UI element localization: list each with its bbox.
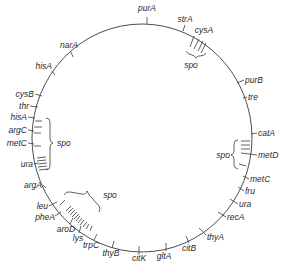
- spo-labels: spo spo spo spo: [57, 60, 230, 200]
- gene-label-metC-right: metC: [250, 174, 271, 184]
- gene-label-purA: purA: [137, 3, 156, 13]
- gene-label-strA: strA: [177, 14, 192, 24]
- gene-label-lys: lys: [73, 233, 84, 243]
- gene-label-aroD: aroD: [57, 224, 75, 234]
- gene-label-pheA: pheA: [34, 212, 55, 222]
- gene-label-argC: argC: [9, 125, 28, 135]
- gene-label-citK: citK: [132, 253, 147, 263]
- gene-label-leu: leu: [37, 201, 49, 211]
- spo-label-upper-right: spo: [184, 60, 198, 70]
- gene-label-citB: citB: [182, 243, 197, 253]
- genetic-map-diagram: purA strA cysA purB tre catA metD metC f…: [0, 0, 287, 264]
- gene-label-cysA: cysA: [195, 25, 214, 35]
- gene-label-thr: thr: [19, 101, 30, 111]
- gene-label-hisA-lower: hisA: [10, 112, 27, 122]
- gene-label-metD: metD: [258, 150, 278, 160]
- gene-label-thyA: thyA: [207, 232, 224, 242]
- gene-label-narA: narA: [60, 40, 78, 50]
- gene-label-tre: tre: [248, 92, 258, 102]
- spo-ticks: [34, 36, 250, 231]
- gene-label-ura-right: ura: [239, 199, 252, 209]
- gene-label-purB: purB: [244, 75, 263, 85]
- spo-label-right: spo: [216, 150, 230, 160]
- gene-labels: purA strA cysA purB tre catA metD metC f…: [7, 3, 279, 263]
- gene-label-argA: argA: [24, 180, 42, 190]
- gene-label-hisA-upper: hisA: [35, 61, 52, 71]
- gene-label-metC-left: metC: [7, 138, 28, 148]
- gene-label-gltA: gltA: [157, 251, 172, 261]
- spo-braces: [46, 51, 238, 212]
- gene-label-trpC: trpC: [83, 240, 100, 250]
- spo-label-left: spo: [57, 138, 71, 148]
- gene-ticks: [28, 17, 257, 254]
- spo-label-lower-left: spo: [103, 190, 117, 200]
- gene-label-fru: fru: [245, 186, 255, 196]
- gene-label-cysB: cysB: [16, 89, 35, 99]
- gene-label-thyB: thyB: [102, 248, 119, 258]
- gene-label-recA: recA: [227, 212, 245, 222]
- gene-label-ura-left: ura: [21, 159, 34, 169]
- gene-label-catA: catA: [258, 128, 275, 138]
